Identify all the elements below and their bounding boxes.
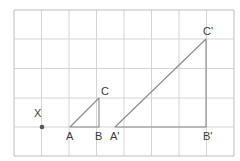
triangle-abc xyxy=(70,98,99,127)
geometry-canvas: X A B C A' B' C' xyxy=(0,0,240,161)
label-x: X xyxy=(34,107,42,119)
label-c-prime: C' xyxy=(203,25,213,37)
label-b-prime: B' xyxy=(203,130,212,142)
label-b: B xyxy=(95,130,102,142)
label-c: C xyxy=(101,85,109,97)
label-a: A xyxy=(66,130,74,142)
grid-lines xyxy=(14,10,234,156)
triangle-a-prime-b-prime-c-prime xyxy=(115,39,206,127)
label-a-prime: A' xyxy=(110,130,119,142)
geometry-figure: X A B C A' B' C' xyxy=(0,0,240,161)
point-x-marker xyxy=(40,125,45,130)
